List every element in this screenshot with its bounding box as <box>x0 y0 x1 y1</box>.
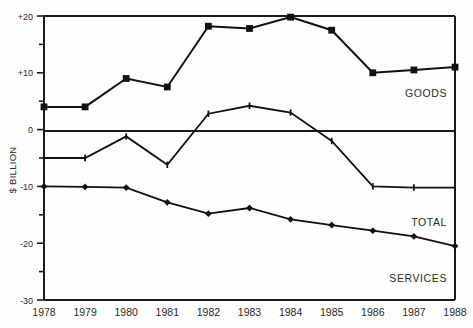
y-tick-label: -10 <box>20 182 33 192</box>
y-axis-ticks <box>37 16 44 300</box>
y-tick-label: 0 <box>28 125 33 135</box>
x-tick-label: 1987 <box>402 306 426 318</box>
data-point-services-1986 <box>369 227 376 234</box>
y-tick-label: -20 <box>20 239 33 249</box>
x-tick-label: 1986 <box>361 306 385 318</box>
x-tick-label: 1981 <box>156 306 180 318</box>
y-axis-tick-labels: +20+100-10-20-30 <box>18 12 33 306</box>
data-point-services-1980 <box>123 184 130 191</box>
data-point-goods-1988 <box>452 64 459 71</box>
data-point-goods-1986 <box>369 69 376 76</box>
data-point-goods-1981 <box>164 84 171 91</box>
data-point-services-1982 <box>205 210 212 217</box>
x-tick-label: 1984 <box>279 306 303 318</box>
series-label-services: SERVICES <box>389 272 447 284</box>
data-point-goods-1984 <box>287 14 294 21</box>
series-line-total <box>44 106 455 188</box>
series-label-goods: GOODS <box>405 87 447 99</box>
data-point-services-1978 <box>41 183 48 190</box>
y-tick-label: +20 <box>18 12 33 22</box>
data-point-goods-1983 <box>246 25 253 32</box>
data-point-services-1985 <box>328 222 335 229</box>
x-tick-label: 1983 <box>238 306 262 318</box>
x-tick-label: 1982 <box>197 306 221 318</box>
y-tick-label: +10 <box>18 68 33 78</box>
series-line-services <box>44 186 455 246</box>
data-point-goods-1979 <box>82 103 89 110</box>
series-inline-labels: GOODSTOTALSERVICES <box>389 87 447 284</box>
data-point-goods-1982 <box>205 23 212 30</box>
x-tick-label: 1988 <box>443 306 467 318</box>
x-tick-label: 1978 <box>32 306 56 318</box>
data-point-goods-1980 <box>123 75 130 82</box>
data-point-services-1979 <box>82 184 89 191</box>
data-point-goods-1987 <box>411 67 418 74</box>
data-point-goods-1985 <box>328 27 335 34</box>
data-point-services-1981 <box>164 199 171 206</box>
line-chart: +20+100-10-20-30 19781979198019811982198… <box>0 0 473 328</box>
x-axis-tick-labels: 1978197919801981198219831984198519861987… <box>32 306 467 318</box>
data-point-services-1987 <box>411 233 418 240</box>
y-tick-label: -30 <box>20 296 33 306</box>
data-point-services-1984 <box>287 216 294 223</box>
chart-container: +20+100-10-20-30 19781979198019811982198… <box>0 0 473 328</box>
x-tick-label: 1980 <box>115 306 139 318</box>
data-point-goods-1978 <box>41 103 48 110</box>
data-point-services-1983 <box>246 205 253 212</box>
y-axis-title: $ BILLION <box>7 146 18 193</box>
data-point-services-1988 <box>452 243 459 250</box>
x-tick-label: 1985 <box>320 306 344 318</box>
x-tick-label: 1979 <box>73 306 97 318</box>
series-label-total: TOTAL <box>411 216 447 228</box>
